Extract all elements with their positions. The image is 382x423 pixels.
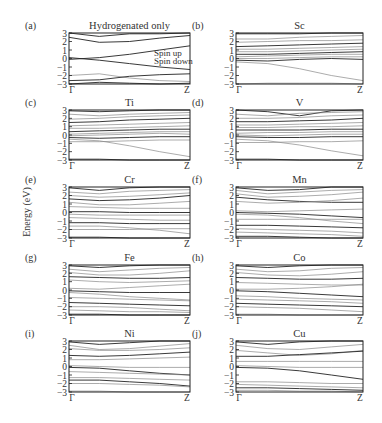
- band-line: [69, 303, 190, 306]
- panel-f: 3210−1−2−3ΓZMn(f): [192, 174, 363, 249]
- panel-title: Mn: [292, 174, 307, 185]
- y-tick-label: −3: [224, 311, 234, 321]
- panel-a: 3210−1−2−3ΓZHydrogenated only(a)Spin upS…: [25, 20, 193, 95]
- x-tick-label-z: Z: [184, 239, 190, 249]
- band-line: [69, 372, 190, 375]
- band-line: [236, 278, 363, 280]
- band-line: [69, 229, 190, 230]
- panel-title: Cu: [293, 328, 306, 339]
- x-tick-label-z: Z: [184, 393, 190, 403]
- band-line: [69, 280, 190, 283]
- y-tick-label: −3: [57, 156, 67, 166]
- panel-i: 3210−1−2−3ΓZNi(i): [25, 328, 190, 403]
- panel-b: 3210−1−2−3ΓZSc(b): [192, 20, 363, 95]
- band-line: [236, 52, 363, 55]
- y-tick-label: −3: [57, 80, 67, 90]
- x-tick-label-gamma: Γ: [69, 85, 75, 95]
- band-line: [236, 49, 363, 52]
- band-line: [69, 129, 190, 132]
- y-tick-label: −3: [224, 80, 234, 90]
- band-line: [69, 201, 190, 204]
- band-line: [236, 283, 363, 286]
- band-line: [69, 367, 190, 375]
- panel-label: (g): [25, 252, 37, 264]
- band-line: [236, 209, 363, 212]
- band-line: [236, 366, 363, 368]
- band-line: [69, 226, 190, 234]
- panel-label: (f): [192, 174, 202, 186]
- panel-title: Ti: [125, 97, 134, 108]
- x-tick-label-z: Z: [357, 393, 363, 403]
- band-line: [236, 225, 363, 228]
- y-tick-label: −3: [224, 156, 234, 166]
- band-line: [236, 43, 363, 46]
- band-line: [236, 62, 363, 81]
- band-line: [236, 141, 363, 143]
- x-tick-label-gamma: Γ: [69, 393, 75, 403]
- x-tick-label-z: Z: [184, 316, 190, 326]
- panel-label: (b): [192, 20, 204, 32]
- panel-g: 3210−1−2−3ΓZFe(g): [25, 252, 190, 326]
- x-tick-label-gamma: Γ: [69, 316, 75, 326]
- band-line: [236, 291, 363, 297]
- panel-label: (i): [25, 328, 34, 340]
- y-axis-label: Energy (eV): [21, 187, 33, 237]
- band-line: [69, 223, 190, 224]
- band-line: [69, 271, 190, 275]
- band-line: [236, 57, 363, 59]
- band-line: [236, 341, 363, 344]
- band-line: [69, 366, 190, 368]
- band-line: [236, 303, 363, 306]
- y-tick-label: −3: [224, 388, 234, 398]
- band-line: [236, 123, 363, 126]
- x-tick-label-gamma: Γ: [69, 161, 75, 171]
- band-line: [69, 357, 190, 360]
- legend-entry: Spin down: [154, 56, 193, 66]
- band-line: [69, 268, 190, 272]
- panel-c: 3210−1−2−3ΓZTi(c): [25, 97, 190, 171]
- x-tick-label-z: Z: [184, 161, 190, 171]
- band-line: [236, 126, 363, 128]
- band-line: [236, 47, 363, 50]
- y-tick-label: −3: [57, 388, 67, 398]
- x-tick-label-gamma: Γ: [236, 393, 242, 403]
- x-tick-label-gamma: Γ: [236, 316, 242, 326]
- panel-title: Hydrogenated only: [89, 20, 171, 31]
- x-tick-label-z: Z: [357, 161, 363, 171]
- band-line: [236, 388, 363, 391]
- band-line: [236, 367, 363, 379]
- x-tick-label-gamma: Γ: [236, 85, 242, 95]
- band-line: [236, 384, 363, 387]
- panel-label: (c): [25, 97, 36, 109]
- band-line: [236, 382, 363, 384]
- x-tick-label-gamma: Γ: [236, 161, 242, 171]
- x-tick-label-z: Z: [357, 239, 363, 249]
- band-line: [69, 207, 190, 209]
- panel-label: (j): [192, 328, 201, 340]
- band-line: [69, 218, 190, 221]
- band-line: [236, 132, 363, 134]
- band-line: [236, 129, 363, 130]
- panel-title: Fe: [124, 252, 135, 263]
- band-line: [236, 232, 363, 236]
- band-line: [236, 268, 363, 272]
- band-line: [236, 59, 363, 62]
- band-line: [69, 284, 190, 289]
- band-line: [236, 118, 363, 121]
- band-line: [69, 137, 190, 139]
- panel-h: 3210−1−2−3ΓZCo(h): [192, 252, 363, 326]
- band-line: [69, 380, 190, 386]
- band-line: [69, 212, 190, 213]
- panel-label: (e): [25, 174, 36, 186]
- x-tick-label-gamma: Γ: [236, 239, 242, 249]
- band-line: [236, 36, 363, 40]
- band-line: [69, 190, 190, 194]
- band-line: [236, 214, 363, 223]
- band-line: [69, 310, 190, 313]
- panel-title: Sc: [294, 20, 305, 31]
- panel-title: Cr: [124, 174, 135, 185]
- x-tick-label-gamma: Γ: [69, 239, 75, 249]
- band-line: [69, 291, 190, 293]
- y-tick-label: −3: [57, 311, 67, 321]
- band-line: [236, 190, 363, 194]
